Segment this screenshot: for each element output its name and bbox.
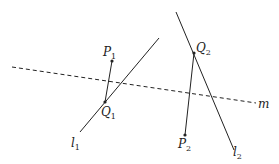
line-l1 xyxy=(80,38,159,132)
label-p1: P1 xyxy=(102,45,116,61)
geometry-diagram: m l1 l2 P1 Q1 Q2 P2 xyxy=(0,0,279,164)
label-m: m xyxy=(258,97,269,111)
label-p2: P2 xyxy=(177,137,191,153)
label-q2: Q2 xyxy=(196,41,211,57)
label-l1: l1 xyxy=(71,136,80,152)
label-q1: Q1 xyxy=(101,105,116,121)
line-m xyxy=(12,67,256,103)
point-q1 xyxy=(103,100,106,103)
line-l2 xyxy=(176,12,234,150)
label-l2: l2 xyxy=(233,145,242,161)
